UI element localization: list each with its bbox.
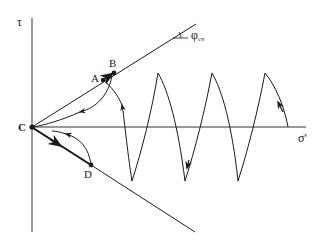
d-unload-path — [66, 134, 91, 165]
tau-axis-label: τ — [17, 15, 22, 29]
phi-cv-label: φcv — [191, 28, 205, 43]
phi-symbol: φ — [191, 28, 198, 42]
c-to-d-path — [33, 128, 91, 165]
phi-subscript: cv — [198, 35, 205, 43]
descending-arrow-icon — [187, 160, 189, 168]
last-ascent-arrow-icon — [278, 102, 283, 112]
point-c-label: C — [18, 121, 26, 133]
point-a-label: A — [91, 72, 99, 84]
point-b-label: B — [109, 57, 116, 69]
point-d-label: D — [84, 168, 92, 180]
sigma-axis-label: σ' — [298, 131, 307, 145]
d-return-tail — [52, 131, 66, 134]
upper-envelope-line — [32, 24, 196, 127]
return-to-c-curve — [33, 112, 80, 127]
stress-path-diagram: τ σ' φcv C A B D — [0, 0, 329, 245]
c-to-d-arrow-icon — [50, 139, 60, 146]
ascending-path-to-a — [122, 105, 132, 181]
